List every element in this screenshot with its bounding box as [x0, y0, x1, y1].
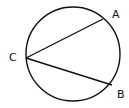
- circle-diagram: C A B: [0, 0, 129, 108]
- chord-ca: [26, 19, 103, 58]
- point-label-a: A: [112, 8, 120, 21]
- circle: [26, 7, 120, 101]
- point-label-c: C: [9, 51, 17, 64]
- chord-cb: [26, 58, 112, 85]
- point-label-b: B: [117, 88, 125, 101]
